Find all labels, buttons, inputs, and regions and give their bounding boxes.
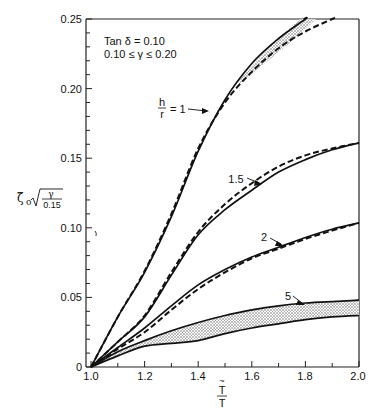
y-tick-label: 0.25 — [61, 13, 82, 25]
svg-text:0.15: 0.15 — [43, 200, 61, 210]
y-axis-ticks — [86, 19, 92, 367]
label-h-r-1: h r = 1 — [158, 96, 209, 120]
chart: 0 0.05 0.10 0.15 0.20 0.25 1.0 1.2 1.4 1… — [0, 0, 378, 420]
x-axis-ticks — [91, 361, 359, 367]
svg-text:o: o — [26, 197, 31, 207]
x-axis-label: ~ T T — [217, 376, 227, 409]
svg-text:T: T — [219, 397, 226, 409]
svg-text:h: h — [159, 96, 165, 108]
y-tick-label: 0.10 — [61, 222, 82, 234]
svg-text:γ: γ — [48, 189, 53, 199]
svg-text:r: r — [160, 108, 164, 120]
x-tick-label: 1.8 — [297, 370, 312, 382]
label-h-r-1-5: 1.5 — [228, 173, 243, 185]
svg-text:T: T — [219, 384, 226, 396]
svg-text:= 1: = 1 — [170, 103, 186, 115]
y-tick-label: 0.20 — [61, 83, 82, 95]
y-tick-label: 0.15 — [61, 152, 82, 164]
x-tick-label: 2.0 — [350, 370, 365, 382]
annotation-gamma-range: 0.10 ≤ γ ≤ 0.20 — [104, 48, 177, 60]
y-axis-label: ζ̃ o γ 0.15 — [17, 189, 63, 210]
y-tick-labels: 0 0.05 0.10 0.15 0.20 0.25 — [61, 13, 82, 373]
x-tick-label: 1.4 — [190, 370, 205, 382]
svg-text:ζ̃: ζ̃ — [17, 191, 24, 205]
stray-mark — [95, 231, 96, 236]
y-tick-label: 0.05 — [61, 291, 82, 303]
x-tick-label: 1.2 — [137, 370, 152, 382]
annotation-tan-delta: Tan δ = 0.10 — [104, 35, 165, 47]
x-tick-label: 1.0 — [83, 370, 98, 382]
label-h-r-2: 2 — [261, 231, 267, 243]
label-arrow-2 — [270, 238, 284, 246]
y-tick-label: 0 — [76, 361, 82, 373]
x-tick-label: 1.6 — [244, 370, 259, 382]
label-h-r-5: 5 — [285, 290, 291, 302]
